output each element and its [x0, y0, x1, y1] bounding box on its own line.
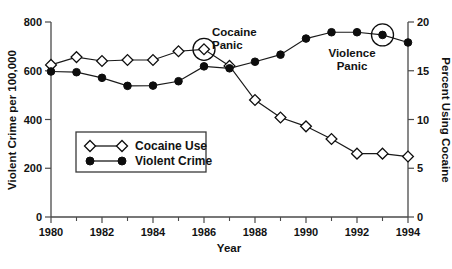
data-point-filled-circle [175, 77, 183, 85]
data-point-filled-circle [98, 74, 106, 82]
data-point-filled-circle [124, 82, 132, 90]
x-tick-label: 1980 [39, 226, 63, 238]
data-point-open-diamond [352, 148, 363, 159]
data-point-filled-circle [200, 63, 208, 71]
data-point-open-diamond [148, 55, 159, 66]
legend-marker-filled-circle-icon-2 [118, 157, 126, 165]
violence-panic-label-line1: Violence [328, 47, 375, 59]
y-right-tick-label: 0 [417, 211, 423, 223]
data-point-filled-circle [328, 28, 336, 36]
data-point-filled-circle [149, 82, 157, 90]
legend-label-cocaine-use: Cocaine Use [135, 139, 207, 153]
cocaine-panic-label-line1: Cocaine [212, 26, 257, 38]
y-left-tick-label: 400 [24, 114, 42, 126]
data-point-open-diamond [377, 148, 388, 159]
data-point-filled-circle [47, 68, 55, 76]
y-left-tick-label: 800 [24, 16, 42, 28]
legend-label-violent-crime: Violent Crime [135, 154, 212, 168]
chart-legend: Cocaine Use Violent Crime [76, 132, 212, 172]
chart-figure: 0200400600800 05101520 19801982198419861… [0, 0, 452, 269]
y-axis-right-title: Percent Using Cocaine [440, 57, 452, 182]
data-point-filled-circle [226, 65, 234, 73]
chart-svg: 0200400600800 05101520 19801982198419861… [0, 0, 452, 269]
legend-marker-filled-circle-icon [86, 157, 94, 165]
x-tick-label: 1982 [90, 226, 114, 238]
data-point-open-diamond [173, 46, 184, 57]
y-right-tick-label: 15 [417, 65, 429, 77]
y-axis-right-ticks: 05101520 [408, 16, 429, 223]
y-right-tick-label: 20 [417, 16, 429, 28]
data-point-open-diamond [199, 44, 210, 55]
x-axis-ticks: 19801982198419861988199019921994 [39, 217, 421, 238]
data-point-open-diamond [301, 121, 312, 132]
x-tick-label: 1992 [345, 226, 369, 238]
annotation-cocaine-panic: Cocaine Panic [193, 26, 257, 60]
data-point-filled-circle [302, 35, 310, 43]
data-point-filled-circle [73, 68, 81, 76]
violence-panic-label-line2: Panic [337, 60, 368, 72]
data-point-open-diamond [403, 151, 414, 162]
y-right-tick-label: 10 [417, 114, 429, 126]
y-left-tick-label: 200 [24, 162, 42, 174]
data-point-open-diamond [97, 56, 108, 67]
x-tick-label: 1984 [141, 226, 166, 238]
x-axis-title: Year [217, 242, 242, 254]
data-point-open-diamond [71, 52, 82, 63]
y-left-tick-label: 600 [24, 65, 42, 77]
data-point-open-diamond [326, 134, 337, 145]
data-point-filled-circle [353, 28, 361, 36]
y-axis-left-title: Violent Crime per 100,000 [6, 50, 18, 190]
data-point-filled-circle [379, 31, 387, 39]
data-point-open-diamond [122, 55, 133, 66]
y-axis-left-ticks: 0200400600800 [24, 16, 51, 223]
cocaine-panic-label-line2: Panic [212, 39, 243, 51]
x-tick-label: 1988 [243, 226, 267, 238]
data-point-open-diamond [275, 112, 286, 123]
data-point-filled-circle [251, 58, 259, 66]
data-point-filled-circle [277, 51, 285, 59]
data-point-filled-circle [404, 39, 412, 47]
y-left-tick-label: 0 [36, 211, 42, 223]
x-tick-label: 1990 [294, 226, 318, 238]
x-tick-label: 1994 [396, 226, 421, 238]
x-tick-label: 1986 [192, 226, 216, 238]
y-right-tick-label: 5 [417, 162, 423, 174]
data-point-open-diamond [250, 95, 261, 106]
